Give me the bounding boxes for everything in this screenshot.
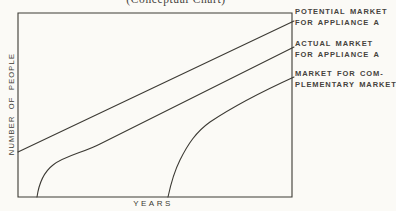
label-potential-market-line1: POTENTIAL MARKET [295, 7, 387, 18]
plot-area [0, 0, 396, 211]
label-actual-market: ACTUAL MARKET FOR APPLIANCE A [295, 39, 380, 60]
plot-frame [18, 13, 292, 197]
y-axis-label: NUMBER OF PEOPLE [7, 53, 16, 155]
x-axis-label: YEARS [133, 199, 173, 208]
label-actual-market-line2: FOR APPLIANCE A [295, 50, 380, 61]
conceptual-chart-figure: (Conceptual Chart) NUMBER OF PEOPLE YEAR… [0, 0, 396, 211]
label-complementary-market-line2: PLEMENTARY MARKET [295, 80, 396, 91]
label-potential-market: POTENTIAL MARKET FOR APPLIANCE A [295, 7, 387, 28]
label-potential-market-line2: FOR APPLIANCE A [295, 18, 387, 29]
complementary-market-curve [168, 77, 294, 197]
potential-market-line [18, 21, 294, 152]
label-complementary-market-line1: MARKET FOR COM- [295, 69, 396, 80]
label-complementary-market: MARKET FOR COM- PLEMENTARY MARKET [295, 69, 396, 90]
actual-market-curve [37, 47, 294, 197]
label-actual-market-line1: ACTUAL MARKET [295, 39, 380, 50]
